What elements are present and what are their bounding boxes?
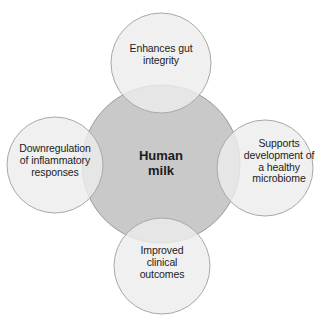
satellite-circle-left [7, 117, 103, 213]
satellite-circle-bottom [114, 218, 210, 314]
satellite-circle-right [217, 120, 313, 216]
satellite-circle-top [111, 13, 211, 113]
venn-circles-graphic [0, 0, 318, 319]
benefits-of-human-milk-diagram: Enhances gut integrity Supports developm… [0, 0, 318, 319]
